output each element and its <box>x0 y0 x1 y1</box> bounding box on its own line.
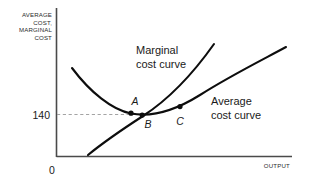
y-axis-caption-line-4: COST <box>34 34 52 41</box>
cost-curve-chart: A B C AVERAGE COST, MARGINAL COST 140 0 … <box>0 0 310 187</box>
marginal-cost-label-line-1: Marginal <box>136 44 178 56</box>
point-a-label: A <box>130 95 138 107</box>
point-b-marker <box>140 113 145 118</box>
point-b-label: B <box>144 118 151 130</box>
y-axis-caption-line-2: COST, <box>33 19 52 26</box>
marginal-cost-label-line-2: cost curve <box>136 58 186 70</box>
y-axis-caption-line-1: AVERAGE <box>22 11 52 18</box>
average-cost-label-line-1: Average <box>211 95 252 107</box>
y-tick-label-140: 140 <box>32 109 50 121</box>
point-a-marker <box>128 111 133 116</box>
y-axis-caption-line-3: MARGINAL <box>19 26 52 33</box>
x-axis-caption: OUTPUT <box>264 162 290 169</box>
point-c-label: C <box>176 115 184 127</box>
point-c-marker <box>177 104 182 109</box>
average-cost-label-line-2: cost curve <box>211 109 261 121</box>
origin-label: 0 <box>49 164 55 176</box>
